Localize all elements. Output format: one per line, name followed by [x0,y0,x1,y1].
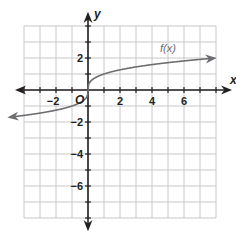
y-tick-label: −6 [70,180,83,192]
y-tick-label: −2 [70,116,83,128]
x-tick-label: 2 [117,95,123,107]
function-graph: −22462−2−4−6 f(x) x y O [0,0,236,236]
x-tick-label: 4 [149,95,156,107]
x-tick-label: 6 [181,95,187,107]
x-tick-label: −2 [47,95,60,107]
origin-label: O [75,93,85,107]
y-axis-label: y [93,7,102,21]
y-tick-label: 2 [77,52,83,64]
x-axis-label: x [229,73,236,87]
grid-lines [24,26,216,218]
y-tick-label: −4 [70,148,83,160]
curve-label: f(x) [160,42,176,54]
